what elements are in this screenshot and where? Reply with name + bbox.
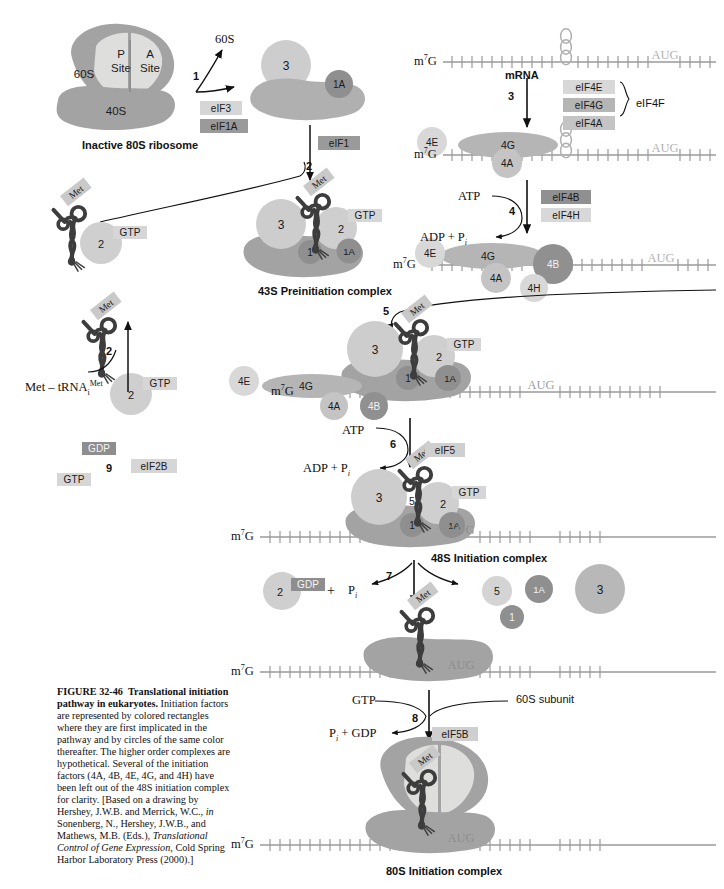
40s-mrna-trna-shape <box>260 609 716 681</box>
mrna-cap-2: m7G <box>414 147 437 161</box>
circle-label-1a-43s: 1A <box>343 246 355 257</box>
factor-box-eif5[interactable]: eIF5 <box>425 443 465 457</box>
circle-label-4a-2: 4A <box>490 273 503 284</box>
step-number-2b: 2 <box>106 345 112 357</box>
factor-box-eif4a[interactable]: eIF4A <box>563 116 615 130</box>
circle-label-2-43s: 2 <box>338 223 344 235</box>
circle-label-4a-3: 4A <box>328 401 341 412</box>
circle-label-5-released: 5 <box>494 585 500 597</box>
figure-caption: FIGURE 32-46 Translational initiation pa… <box>57 686 235 866</box>
circle-label-1-43s: 1 <box>307 247 313 258</box>
pi-label-step7: Pi <box>348 584 357 600</box>
80s-initiation-complex-shape <box>260 737 716 853</box>
step-number-1: 1 <box>193 70 199 82</box>
gdp-tag-released: GDP <box>291 578 325 591</box>
circle-label-2-48s: 2 <box>440 498 446 510</box>
sixty-s-subunit-label: 60S subunit <box>516 694 574 705</box>
factor-box-eif4b[interactable]: eIF4B <box>541 190 591 204</box>
step-number-7: 7 <box>386 570 392 582</box>
eif4f-group-label: eIF4F <box>636 98 665 109</box>
48s-complex-label: 48S Initiation complex <box>431 553 547 564</box>
atp-label-step6: ATP <box>342 424 364 437</box>
caption-in-1: in <box>206 806 214 817</box>
label-a-site-2: Site <box>140 62 160 74</box>
gtp-tag-upper: GTP <box>113 226 147 239</box>
circle-label-1-released: 1 <box>509 612 515 623</box>
circle-label-4e-3: 4E <box>238 376 251 387</box>
circle-label-4g-1: 4G <box>501 139 515 151</box>
gdp-tag-recycle: GDP <box>82 442 116 455</box>
step-1-arrows <box>196 50 234 92</box>
met-trna-label: Met – tRNAiMet <box>25 380 103 397</box>
gtp-tag-48s: GTP <box>452 486 486 499</box>
mrna-cap-1: m7G <box>414 54 437 68</box>
circle-label-5-48s: 5 <box>409 495 415 507</box>
label-60s-subunit: 60S <box>74 68 95 80</box>
figure-title-2: pathway in eukaryotes. <box>57 698 158 709</box>
aug-codon-3: AUG <box>647 251 674 265</box>
circle-label-2-lower: 2 <box>128 389 134 401</box>
eif4f-bracket <box>620 82 629 116</box>
atp-label-step4: ATP <box>458 190 480 203</box>
aug-codon-6: AUG <box>447 658 474 672</box>
circle-label-2-released: 2 <box>277 586 283 598</box>
circle-label-4g-3: 4G <box>299 380 313 392</box>
43s-complex-label: 43S Preinitiation complex <box>258 286 392 297</box>
figure-canvas: 60S P Site A Site 40S 3 1A 3 2 1 1A 2 2 … <box>0 0 724 889</box>
circle-label-3-48sa: 3 <box>372 343 379 357</box>
48s-assembly-shape <box>229 321 716 420</box>
gtp-tag-43s: GTP <box>348 209 382 222</box>
step-number-5: 5 <box>383 305 389 317</box>
pi-gdp-label-step8: Pi + GDP <box>329 727 377 743</box>
factor-box-eif4h[interactable]: eIF4H <box>541 208 591 222</box>
figure-number: FIGURE 32-46 <box>57 686 123 697</box>
label-40s-subunit: 40S <box>106 105 127 117</box>
mrna-cap-5: m7G <box>231 529 254 543</box>
circle-label-3-released: 3 <box>597 583 604 597</box>
met-trna-eif2-gtp-upper-shape <box>54 207 122 272</box>
43s-preinitiation-complex-shape <box>244 195 364 277</box>
mrna-label: mRNA <box>505 70 539 81</box>
figure-title-1: Translational initiation <box>128 686 228 697</box>
aug-codon-1: AUG <box>651 48 678 62</box>
aug-codon-5: AUG <box>447 523 474 537</box>
factor-box-eif2b[interactable]: eIF2B <box>131 459 177 473</box>
circle-label-1a-48sa: 1A <box>444 373 456 384</box>
circle-label-4e-2: 4E <box>424 248 437 259</box>
step-number-3: 3 <box>508 90 514 102</box>
40s-eif3-complex-shape <box>250 40 365 120</box>
circle-label-2-48sa: 2 <box>436 351 442 363</box>
caption-body: Initiation factors are represented by co… <box>57 698 230 817</box>
factor-box-eif4e[interactable]: eIF4E <box>563 80 615 94</box>
gtp-tag-48sa: GTP <box>447 338 481 351</box>
circle-label-3: 3 <box>283 59 290 73</box>
circle-label-4g-2: 4G <box>481 250 495 262</box>
circle-label-1a: 1A <box>333 79 346 90</box>
factor-box-eif1a[interactable]: eIF1A <box>200 119 248 133</box>
aug-codon-2: AUG <box>651 141 678 155</box>
met-trna-eif2-gtp-lower-shape <box>84 319 152 415</box>
label-a-site-1: A <box>146 48 154 60</box>
label-p-site-2: Site <box>111 62 131 74</box>
factor-box-eif4g[interactable]: eIF4G <box>563 98 615 112</box>
gtp-tag-recycle: GTP <box>57 473 91 486</box>
factor-box-eif5b[interactable]: eIF5B <box>432 727 478 741</box>
inactive-80s-label: Inactive 80S ribosome <box>82 140 198 151</box>
mrna-strand-3 <box>415 238 716 302</box>
step-number-9: 9 <box>106 462 112 474</box>
factor-box-eif3[interactable]: eIF3 <box>200 101 242 115</box>
plus-sign-step7: + <box>327 584 335 598</box>
factor-box-eif1[interactable]: eIF1 <box>318 136 360 150</box>
mrna-cap-3: m7G <box>393 257 416 271</box>
released-60s-label: 60S <box>215 33 234 46</box>
adp-pi-label-step4: ADP + Pi <box>420 231 467 247</box>
aug-codon-4: AUG <box>527 378 554 392</box>
gtp-label-step8: GTP <box>352 694 376 707</box>
48s-initiation-complex-shape <box>260 468 716 547</box>
circle-label-4b-2: 4B <box>547 259 560 270</box>
circle-label-4h-2: 4H <box>528 283 541 294</box>
80s-complex-label: 80S Initiation complex <box>386 866 502 877</box>
released-factors-shapes <box>482 564 625 629</box>
circle-label-3-43s: 3 <box>278 218 285 232</box>
circle-label-4a-1: 4A <box>501 158 514 169</box>
